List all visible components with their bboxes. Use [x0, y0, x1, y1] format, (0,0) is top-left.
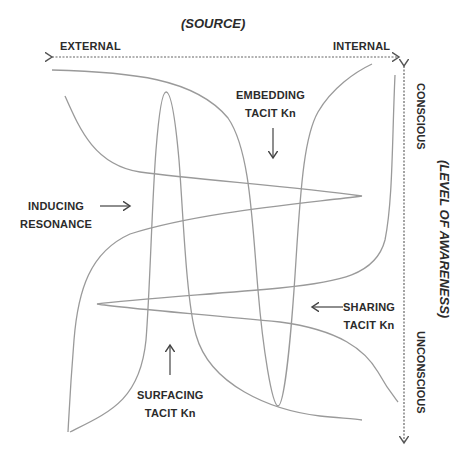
unconscious-label: UNCONSCIOUS: [415, 331, 427, 414]
embedding-tacit-label: EMBEDDING TACIT Kn: [236, 88, 305, 120]
conscious-label: CONSCIOUS: [415, 83, 427, 150]
curve-inducing-loop: [65, 96, 362, 432]
sharing-tacit-label: SHARING TACIT Kn: [343, 300, 395, 332]
curve-sharing-loop: [97, 75, 398, 402]
curve-surfacing-peak: [70, 92, 362, 432]
source-title: (SOURCE): [181, 16, 245, 31]
awareness-title: (LEVEL OF AWARENESS): [437, 160, 452, 318]
internal-label: INTERNAL: [333, 39, 390, 53]
curve-embedding-v: [52, 64, 372, 406]
surfacing-tacit-label: SURFACING TACIT Kn: [137, 388, 204, 420]
external-label: EXTERNAL: [60, 39, 121, 53]
inducing-resonance-label: INDUCING RESONANCE: [20, 199, 92, 231]
